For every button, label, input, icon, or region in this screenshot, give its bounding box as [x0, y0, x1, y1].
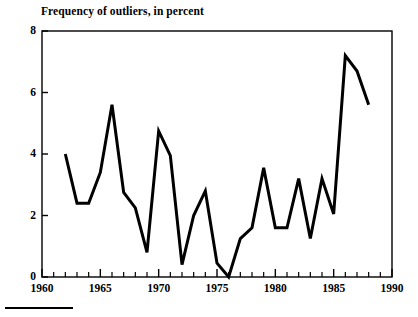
y-tick-label: 6 [20, 87, 36, 99]
y-tick-label: 2 [20, 210, 36, 222]
x-tick-label: 1980 [253, 283, 297, 295]
line-chart-plot [0, 0, 418, 317]
x-tick-label: 1975 [195, 283, 239, 295]
y-tick-label: 8 [20, 25, 36, 37]
footer-rule [5, 307, 73, 309]
y-axis-ticks [42, 31, 48, 277]
x-tick-label: 1960 [20, 283, 64, 295]
x-tick-label: 1970 [137, 283, 181, 295]
y-tick-label: 4 [20, 148, 36, 160]
x-axis-major-ticks [42, 269, 392, 277]
x-tick-label: 1985 [312, 283, 356, 295]
chart-figure: Frequency of outliers, in percent 02468 … [0, 0, 418, 317]
x-tick-label: 1965 [78, 283, 122, 295]
data-series-line [65, 56, 368, 277]
x-tick-label: 1990 [370, 283, 414, 295]
y-tick-label: 0 [20, 271, 36, 283]
